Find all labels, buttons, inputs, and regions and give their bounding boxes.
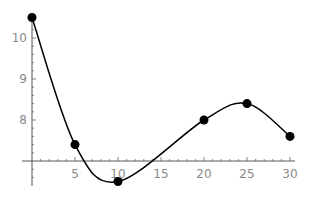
y-tick-label: 8 (19, 113, 27, 127)
x-tick-label: 25 (239, 167, 254, 181)
axes (22, 14, 295, 186)
chart: 51015202530 8910 (0, 0, 315, 200)
data-point (28, 13, 37, 22)
y-tick-label: 10 (12, 31, 27, 45)
data-point (71, 140, 80, 149)
data-point (243, 99, 252, 108)
x-tick-label: 15 (153, 167, 168, 181)
x-tick-label: 20 (196, 167, 211, 181)
y-tick-label: 9 (19, 72, 27, 86)
data-point (200, 116, 209, 125)
x-tick-label: 30 (282, 167, 297, 181)
data-point (286, 132, 295, 141)
x-tick-label: 5 (71, 167, 79, 181)
data-point (114, 177, 123, 186)
